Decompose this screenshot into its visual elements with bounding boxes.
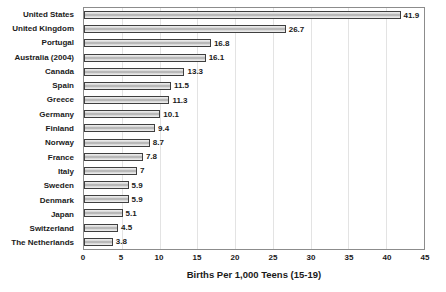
bar [84,11,401,19]
bar-row: 5.9 [84,192,424,206]
category-label: Germany [0,107,79,121]
bar [84,54,206,62]
category-label: Greece [0,93,79,107]
category-label: Finland [0,121,79,135]
bar [84,181,129,189]
bar-row: 9.4 [84,121,424,135]
bar [84,209,123,217]
bar-row: 4.5 [84,221,424,235]
bar-value-label: 5.1 [126,209,137,218]
bar [84,25,286,33]
bar-row: 3.8 [84,235,424,249]
bar [84,139,150,147]
bar-value-label: 41.9 [404,11,420,20]
bar [84,82,171,90]
category-label: Canada [0,64,79,78]
bar-row: 41.9 [84,8,424,22]
bar-value-label: 16.8 [214,39,230,48]
bar-row: 8.7 [84,136,424,150]
bar [84,238,113,246]
teen-birth-rate-bar-chart: United StatesUnited KingdomPortugalAustr… [0,0,446,292]
bar-row: 5.9 [84,178,424,192]
bar-value-label: 16.1 [209,53,225,62]
x-tick-label: 40 [383,253,392,262]
bar-value-label: 5.9 [132,195,143,204]
category-label: Denmark [0,193,79,207]
category-label: Spain [0,78,79,92]
bar-value-label: 11.5 [174,81,189,90]
bar-value-label: 8.7 [153,138,164,147]
bar [84,39,211,47]
plot-area: 41.926.716.816.113.311.511.310.19.48.77.… [83,7,425,250]
bar-value-label: 7 [140,166,144,175]
bar-rows: 41.926.716.816.113.311.511.310.19.48.77.… [84,8,424,249]
category-label: Australia (2004) [0,50,79,64]
bar-row: 11.5 [84,79,424,93]
bar-row: 11.3 [84,93,424,107]
bar-value-label: 7.8 [146,152,157,161]
x-tick-label: 10 [155,253,164,262]
bar [84,224,118,232]
category-label: Switzerland [0,221,79,235]
bar-value-label: 5.9 [132,181,143,190]
category-label: Japan [0,207,79,221]
bar [84,96,169,104]
bar-row: 7.8 [84,150,424,164]
bar [84,68,184,76]
bar-value-label: 11.3 [172,96,187,105]
bar-row: 26.7 [84,22,424,36]
x-axis-tick-labels: 051015202530354045 [83,253,425,265]
bar-value-label: 3.8 [116,237,127,246]
category-label: Italy [0,164,79,178]
bar [84,167,137,175]
category-axis-labels: United StatesUnited KingdomPortugalAustr… [0,7,79,250]
category-label: The Netherlands [0,236,79,250]
x-tick-label: 45 [421,253,430,262]
bar-row: 7 [84,164,424,178]
category-label: Norway [0,136,79,150]
bar-value-label: 26.7 [289,25,305,34]
bar [84,110,160,118]
bar-value-label: 10.1 [163,110,179,119]
bar-value-label: 9.4 [158,124,169,133]
bar [84,153,143,161]
category-label: Portugal [0,36,79,50]
category-label: United States [0,7,79,21]
x-tick-label: 5 [119,253,123,262]
bar-value-label: 4.5 [121,223,132,232]
bar-row: 5.1 [84,206,424,220]
x-tick-label: 15 [193,253,202,262]
x-tick-label: 30 [307,253,316,262]
x-axis-title: Births Per 1,000 Teens (15-19) [83,269,425,280]
bar [84,124,155,132]
bar-row: 16.8 [84,36,424,50]
bar-row: 16.1 [84,51,424,65]
x-tick-label: 0 [81,253,85,262]
bar-value-label: 13.3 [187,67,203,76]
category-label: Sweden [0,179,79,193]
x-tick-label: 25 [269,253,278,262]
bar-row: 10.1 [84,107,424,121]
x-tick-label: 20 [231,253,240,262]
category-label: United Kingdom [0,21,79,35]
category-label: France [0,150,79,164]
bar-row: 13.3 [84,65,424,79]
x-tick-label: 35 [345,253,354,262]
bar [84,195,129,203]
